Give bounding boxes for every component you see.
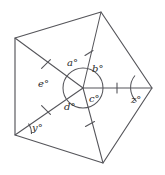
pentagon-angle-diagram	[0, 0, 165, 175]
angle-label-y: y°	[32, 123, 43, 133]
spoke-to-top	[83, 12, 101, 88]
angle-label-a: a°	[67, 58, 78, 68]
center-spokes	[15, 12, 152, 163]
angle-label-c: c°	[89, 94, 100, 104]
angle-label-z: z°	[131, 95, 141, 105]
angle-label-e: e°	[38, 79, 49, 89]
angle-label-d: d°	[64, 102, 75, 112]
angle-label-b: b°	[92, 64, 103, 74]
